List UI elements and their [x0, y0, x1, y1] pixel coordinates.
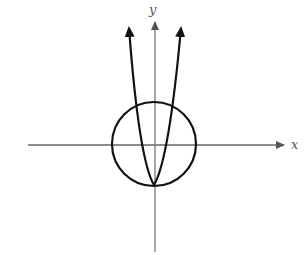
- graph: y x: [0, 0, 308, 255]
- circle-curve: [112, 102, 196, 186]
- x-axis-label: x: [291, 137, 299, 152]
- parabola-right-branch: [154, 28, 181, 185]
- y-axis-label: y: [148, 2, 157, 17]
- parabola-left-branch: [129, 28, 154, 185]
